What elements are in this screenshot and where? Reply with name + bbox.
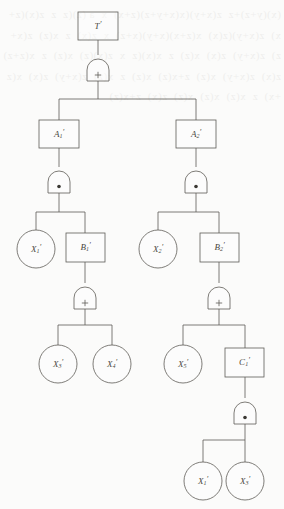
gate-and-3[interactable] [185,171,207,193]
and-gate-dot-icon [243,416,247,420]
node-basic-event-X3[interactable]: X3′ [39,345,77,383]
node-basic-event-X1[interactable]: X1′ [17,230,55,268]
diagram-canvas: (x)(y+z)+z z(x+y)(x(x+y+z)(z+x) x a (z)(… [0,0,284,509]
node-intermediate-C1[interactable]: C1′ [225,348,264,377]
node-intermediate-A2[interactable]: A2′ [176,120,216,148]
node-basic-event-X3-repeat[interactable]: X3′ [226,462,264,500]
and-gate-dot-icon [57,185,61,189]
node-intermediate-B1[interactable]: B1′ [66,233,105,262]
gate-and-6[interactable] [234,402,256,424]
gate-or-1[interactable] [87,59,109,81]
node-intermediate-A1[interactable]: A1′ [39,120,79,148]
and-gate-dot-icon [194,185,198,189]
gate-or-5[interactable] [208,287,230,309]
node-basic-event-X4[interactable]: X4′ [93,345,131,383]
node-basic-event-X5[interactable]: X5′ [164,345,202,383]
gate-and-2[interactable] [48,171,70,193]
and-gate-dome[interactable] [234,402,256,424]
node-basic-event-X1-repeat[interactable]: X1′ [184,462,222,500]
node-intermediate-B2[interactable]: B2′ [200,233,239,262]
fault-tree-svg: T′ A1′ A2′ [0,0,284,509]
and-gate-dome[interactable] [185,171,207,193]
and-gate-dome[interactable] [48,171,70,193]
node-top-event-T[interactable]: T′ [78,12,118,40]
gate-or-4[interactable] [74,287,96,309]
node-basic-event-X2[interactable]: X2′ [139,230,177,268]
